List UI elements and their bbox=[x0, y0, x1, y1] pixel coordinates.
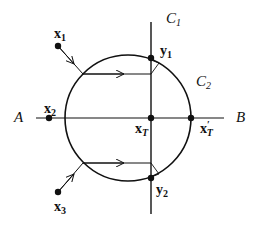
label-x2: x2 bbox=[44, 101, 56, 118]
label-y1: y1 bbox=[160, 43, 172, 60]
label-y2: y2 bbox=[156, 182, 168, 199]
point-xT bbox=[148, 115, 154, 121]
label-xT-prime: x′T bbox=[200, 119, 214, 138]
point-y1 bbox=[148, 55, 154, 61]
label-x1: x1 bbox=[54, 26, 66, 43]
point-x3 bbox=[55, 189, 61, 195]
label-a: A bbox=[13, 109, 24, 125]
point-xT-prime bbox=[188, 115, 194, 121]
segment-x3-to-circle bbox=[58, 163, 83, 192]
label-c2: C2 bbox=[196, 73, 211, 91]
label-c1: C1 bbox=[166, 10, 181, 28]
label-x3: x3 bbox=[54, 199, 66, 216]
label-xT: xT bbox=[135, 121, 149, 138]
point-x1 bbox=[55, 43, 61, 49]
triangle-y1 bbox=[151, 60, 159, 74]
point-y2 bbox=[148, 175, 154, 181]
label-b: B bbox=[236, 109, 245, 125]
segment-x1-to-circle bbox=[58, 46, 83, 74]
diagram-canvas: C1 C2 A B x1 x2 x3 y1 y2 xT x′T bbox=[0, 0, 256, 226]
